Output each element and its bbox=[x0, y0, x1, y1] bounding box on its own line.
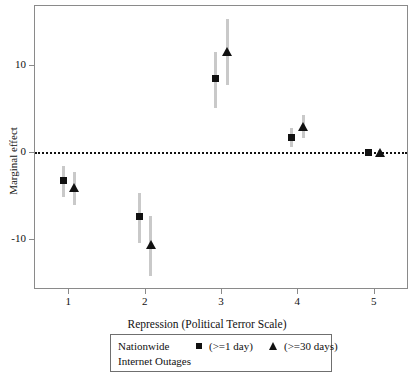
x-axis-tick bbox=[68, 289, 69, 294]
x-axis-tick bbox=[374, 289, 375, 294]
y-axis-tick bbox=[29, 65, 35, 66]
y-axis-tick-label: 10 bbox=[0, 59, 26, 70]
data-point-square bbox=[212, 75, 219, 82]
y-axis-tick bbox=[29, 239, 35, 240]
data-point-square bbox=[60, 177, 67, 184]
data-point-square bbox=[136, 213, 143, 220]
x-axis-tick bbox=[145, 289, 146, 294]
y-axis-tick-label: -10 bbox=[0, 233, 26, 244]
data-point-triangle bbox=[69, 183, 79, 192]
x-axis-tick-label: 4 bbox=[282, 296, 312, 307]
data-point-triangle bbox=[375, 148, 385, 157]
x-axis-tick bbox=[221, 289, 222, 294]
y-axis-tick bbox=[29, 152, 35, 153]
legend-title-line2: Internet Outages bbox=[118, 355, 191, 367]
x-axis-tick-label: 1 bbox=[53, 296, 83, 307]
square-marker-icon bbox=[196, 343, 202, 349]
legend-label-thirty-days: (>=30 days) bbox=[284, 340, 338, 352]
data-point-square bbox=[288, 134, 295, 141]
data-point-triangle bbox=[298, 122, 308, 131]
legend-title-line1: Nationwide bbox=[118, 340, 169, 352]
triangle-marker-icon bbox=[269, 342, 277, 350]
zero-reference-line bbox=[35, 152, 407, 154]
chart-figure: 100-10 Marginal effect 12345 Repression … bbox=[0, 0, 414, 378]
data-point-triangle bbox=[146, 240, 156, 249]
legend-title: Nationwide Internet Outages bbox=[118, 339, 191, 369]
data-point-triangle bbox=[222, 47, 232, 56]
x-axis-tick bbox=[297, 289, 298, 294]
data-point-square bbox=[365, 149, 372, 156]
x-axis-tick-label: 2 bbox=[130, 296, 160, 307]
y-axis-title: Marginal effect bbox=[7, 101, 19, 221]
x-axis-tick-label: 5 bbox=[359, 296, 389, 307]
plot-area bbox=[34, 5, 408, 289]
legend: Nationwide Internet Outages (>=1 day) (>… bbox=[110, 334, 332, 372]
legend-entry-one-day: (>=1 day) bbox=[196, 340, 253, 352]
x-axis-tick-label: 3 bbox=[206, 296, 236, 307]
x-axis-title: Repression (Political Terror Scale) bbox=[0, 318, 414, 330]
legend-label-one-day: (>=1 day) bbox=[209, 340, 253, 352]
legend-entry-thirty-days: (>=30 days) bbox=[269, 340, 338, 352]
